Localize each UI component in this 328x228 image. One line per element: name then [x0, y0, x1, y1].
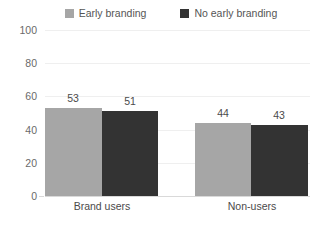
legend-swatch-icon-early-branding — [65, 9, 74, 18]
bar-value-non-users-no-early-branding: 43 — [273, 109, 285, 121]
legend-label-early-branding: Early branding — [79, 7, 147, 19]
x-tick-label-brand-users: Brand users — [74, 200, 131, 213]
bar-brand-users-early-branding[interactable] — [45, 108, 102, 196]
y-tick-label-0: 0 — [31, 191, 37, 202]
bars-layer: 53 51 44 43 — [45, 30, 310, 196]
x-tick-label-non-users: Non-users — [228, 200, 276, 213]
y-tick-mark-0 — [39, 196, 44, 197]
bar-non-users-early-branding[interactable] — [195, 123, 251, 196]
y-tick-label-100: 100 — [19, 25, 37, 36]
chart-legend: Early branding No early branding — [0, 3, 328, 23]
bar-value-brand-users-early-branding: 53 — [67, 92, 79, 104]
axis-baseline — [45, 196, 310, 197]
legend-item-early-branding[interactable]: Early branding — [65, 7, 147, 19]
bar-value-non-users-early-branding: 44 — [217, 107, 229, 119]
y-axis: 100 80 60 40 20 0 — [0, 0, 45, 228]
plot-area: 53 51 44 43 — [45, 30, 310, 196]
y-tick-label-40: 40 — [25, 125, 37, 136]
y-tick-label-20: 20 — [25, 158, 37, 169]
bar-brand-users-no-early-branding[interactable] — [102, 111, 158, 196]
legend-swatch-icon-no-early-branding — [180, 9, 189, 18]
legend-item-no-early-branding[interactable]: No early branding — [180, 7, 277, 19]
x-axis: Brand users Non-users — [45, 200, 310, 220]
legend-label-no-early-branding: No early branding — [194, 7, 277, 19]
y-tick-label-60: 60 — [25, 91, 37, 102]
bar-value-brand-users-no-early-branding: 51 — [124, 95, 136, 107]
bar-non-users-no-early-branding[interactable] — [251, 125, 308, 196]
y-tick-label-80: 80 — [25, 58, 37, 69]
bar-chart: Early branding No early branding 100 80 … — [0, 0, 328, 228]
